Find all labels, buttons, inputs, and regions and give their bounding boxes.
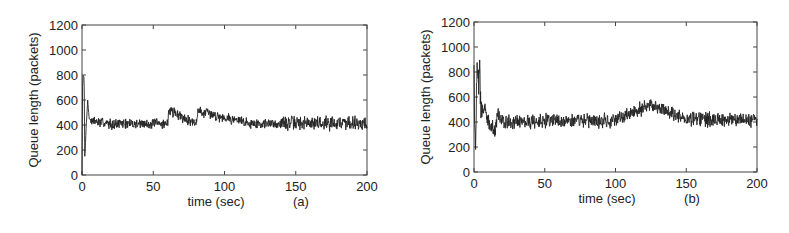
x-tick-label: 50: [146, 179, 160, 194]
y-tick-label: 400: [448, 115, 470, 130]
x-tick-label: 50: [538, 176, 552, 191]
y-tick-label: 0: [71, 168, 78, 183]
x-tick-label: 150: [285, 179, 307, 194]
x-tick-label: 100: [605, 176, 627, 191]
queue-length-line: [474, 60, 757, 150]
y-tick-label: 800: [56, 68, 78, 83]
y-axis-label: Queue length (packets): [418, 29, 433, 164]
y-tick-label: 1000: [49, 43, 78, 58]
chart-a-svg: 020040060080010001200050100150200time (s…: [0, 0, 394, 233]
x-tick-label: 0: [470, 176, 477, 191]
y-tick-label: 800: [448, 65, 470, 80]
y-tick-label: 400: [56, 118, 78, 133]
x-axis-label: time (sec): [187, 194, 244, 209]
plot-frame: [82, 25, 367, 175]
x-tick-label: 0: [78, 179, 85, 194]
y-tick-label: 200: [56, 143, 78, 158]
y-tick-label: 1200: [441, 15, 470, 30]
y-tick-label: 200: [448, 140, 470, 155]
y-tick-label: 1200: [49, 18, 78, 33]
chart-b-svg: 020040060080010001200050100150200time (s…: [390, 0, 784, 233]
panel-label: (a): [293, 194, 309, 209]
y-tick-label: 1000: [441, 40, 470, 55]
panel-label: (b): [684, 191, 700, 206]
queue-length-line: [82, 75, 367, 175]
x-tick-label: 200: [356, 179, 378, 194]
x-axis-label: time (sec): [578, 191, 635, 206]
y-tick-label: 600: [448, 90, 470, 105]
plot-frame: [474, 22, 757, 172]
x-tick-label: 150: [675, 176, 697, 191]
chart-panel-a: 020040060080010001200050100150200time (s…: [0, 0, 394, 233]
x-tick-label: 100: [214, 179, 236, 194]
y-tick-label: 600: [56, 93, 78, 108]
y-tick-label: 0: [463, 165, 470, 180]
chart-panel-b: 020040060080010001200050100150200time (s…: [390, 0, 784, 233]
y-axis-label: Queue length (packets): [26, 32, 41, 167]
x-tick-label: 200: [746, 176, 768, 191]
